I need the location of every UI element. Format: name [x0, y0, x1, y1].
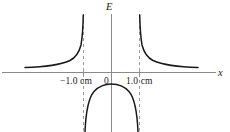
tick-label-pos-one: 1.0 cm: [126, 77, 152, 87]
tick-label-zero: 0: [104, 77, 109, 87]
tick-label-neg-one: −1.0 cm: [60, 77, 92, 87]
left-outer-branch-curve: [25, 15, 83, 68]
electric-field-figure: E x −1.0 cm 0 1.0 cm: [0, 0, 230, 132]
plot-canvas: [0, 0, 230, 132]
right-outer-branch-curve: [140, 15, 198, 68]
e-axis-label: E: [106, 2, 112, 13]
x-axis-label: x: [218, 68, 223, 79]
